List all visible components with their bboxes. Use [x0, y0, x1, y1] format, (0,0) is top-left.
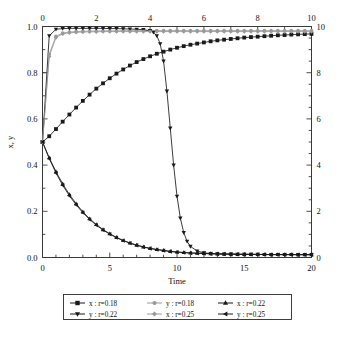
series-marker-3: [168, 127, 172, 131]
series-marker-0: [195, 42, 199, 46]
series-marker-3: [175, 195, 179, 199]
series-marker-3: [158, 42, 162, 46]
tick-label-bottom: 15: [240, 263, 249, 273]
plot-frame: [43, 27, 312, 258]
series-marker-0: [121, 68, 125, 72]
tick-label-top: 10: [307, 13, 316, 23]
series-marker-0: [189, 43, 193, 47]
legend-label: y : r=0.22: [89, 311, 118, 319]
tick-label-bottom: 20: [307, 263, 316, 273]
tick-label-left: 0.2: [27, 206, 38, 216]
series-marker-0: [115, 72, 119, 76]
legend-label: x : r=0.25: [166, 311, 195, 319]
legend-label: y : r=0.18: [166, 300, 195, 308]
series-line-3: [43, 28, 312, 254]
series-marker-3: [155, 34, 159, 38]
tick-label-top: 8: [256, 13, 260, 23]
series-marker-0: [108, 76, 112, 80]
tick-label-bottom: 10: [173, 263, 182, 273]
series-marker-0: [141, 57, 145, 61]
legend-marker: [75, 301, 79, 305]
series-marker-0: [47, 134, 51, 138]
tick-label-left: 0.8: [27, 68, 38, 78]
series-marker-0: [101, 81, 105, 85]
legend-label: x : r=0.18: [89, 300, 118, 308]
data-curves: [43, 28, 312, 254]
tick-label-right: 0: [317, 253, 321, 263]
series-marker-0: [135, 60, 139, 64]
tick-label-left: 0.4: [27, 160, 38, 170]
legend-label: y : r=0.25: [237, 311, 266, 319]
legend-label: x : r=0.22: [237, 300, 266, 308]
series-line-0: [43, 34, 312, 142]
series-marker-3: [188, 245, 192, 249]
series-marker-0: [269, 34, 273, 38]
series-marker-0: [242, 36, 246, 40]
chart-legend: x : r=0.18y : r=0.18x : r=0.22y : r=0.22…: [64, 295, 292, 320]
tick-label-top: 0: [40, 13, 44, 23]
tick-label-top: 6: [202, 13, 206, 23]
series-marker-0: [168, 48, 172, 52]
x-axis-label: Time: [168, 276, 186, 286]
tick-label-right: 10: [317, 22, 326, 32]
series-marker-0: [74, 106, 78, 110]
tick-label-bottom: 5: [108, 263, 112, 273]
tick-label-right: 6: [317, 114, 321, 124]
data-markers: [40, 27, 313, 257]
y-axis-label: x, y: [5, 135, 15, 149]
tick-label-left: 0.0: [27, 253, 38, 263]
series-marker-0: [81, 99, 85, 103]
series-marker-3: [161, 60, 165, 64]
series-marker-0: [162, 50, 166, 54]
series-marker-0: [175, 46, 179, 50]
tick-label-top: 2: [94, 13, 98, 23]
legend-marker: [152, 301, 156, 305]
series-marker-3: [178, 217, 182, 221]
series-marker-0: [94, 87, 98, 91]
series-marker-0: [54, 127, 58, 131]
chart-figure: 051015200.00.20.40.60.81.002468100246810…: [0, 0, 350, 338]
series-marker-0: [263, 34, 267, 38]
series-marker-3: [47, 34, 51, 38]
tick-label-right: 2: [317, 206, 321, 216]
series-marker-0: [222, 38, 226, 42]
tick-label-right: 8: [317, 68, 321, 78]
series-marker-0: [148, 54, 152, 58]
series-marker-3: [171, 163, 175, 167]
series-marker-0: [155, 52, 159, 56]
series-marker-0: [229, 37, 233, 41]
axis-ticks: [43, 27, 312, 258]
series-marker-0: [236, 36, 240, 40]
series-marker-0: [128, 64, 132, 68]
series-marker-3: [182, 231, 186, 235]
series-marker-0: [249, 35, 253, 39]
tick-label-bottom: 0: [40, 263, 44, 273]
series-marker-0: [88, 93, 92, 97]
series-marker-3: [165, 90, 169, 94]
tick-label-right: 4: [317, 160, 322, 170]
series-marker-0: [182, 44, 186, 48]
series-marker-0: [209, 39, 213, 43]
series-marker-0: [215, 38, 219, 42]
series-marker-0: [202, 41, 206, 45]
tick-label-left: 1.0: [27, 22, 38, 32]
tick-label-left: 0.6: [27, 114, 38, 124]
axis-tick-labels: 051015200.00.20.40.60.81.002468100246810: [27, 13, 325, 273]
series-marker-0: [68, 113, 72, 117]
series-marker-0: [256, 35, 260, 39]
series-marker-0: [61, 120, 65, 124]
tick-label-top: 4: [148, 13, 153, 23]
series-marker-0: [276, 33, 280, 37]
